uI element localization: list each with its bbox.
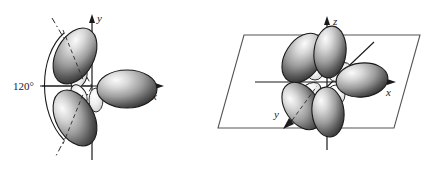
orbital-lobe-x [97,70,157,108]
y-axis-label: y [273,108,279,120]
orbital-lobe-upper-left [44,21,106,92]
z-axis-label: z [332,15,338,27]
angle-label: 120° [13,80,34,92]
orbital-figure: 120° y x [0,0,428,172]
x-axis-label: x [385,86,391,98]
panel-sp2-planar-orbital: 120° y x [0,0,214,172]
y-axis-label: y [96,12,102,24]
orbital-lobes-group [44,21,157,154]
panel-sp3-3d-orbital: z x y [214,0,428,172]
